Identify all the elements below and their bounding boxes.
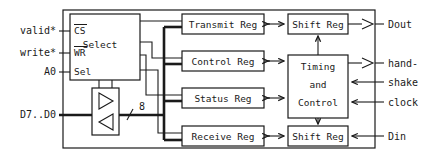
input-din-label: Din xyxy=(388,131,406,142)
diagram-canvas: Select CS WR Sel valid* write* A0 D7..D0… xyxy=(0,0,423,157)
io-handshake-label-line1: hand- xyxy=(388,58,418,69)
output-dout-label: Dout xyxy=(388,19,412,30)
uart-block-diagram: Select CS WR Sel valid* write* A0 D7..D0… xyxy=(0,0,423,157)
io-handshake-label-line2: shake xyxy=(388,77,418,88)
block-shift-reg-rx-label: Shift Reg xyxy=(292,131,343,142)
input-write-label: write* xyxy=(20,47,56,58)
select-pin-sel-label: Sel xyxy=(74,66,91,77)
block-timing-line2: and xyxy=(309,79,326,90)
arrow-handshake-out-icon xyxy=(362,58,373,68)
block-status-reg-label: Status Reg xyxy=(194,93,251,104)
bus-width-label: 8 xyxy=(139,101,145,112)
block-control-reg-label: Control Reg xyxy=(192,56,255,67)
block-receive-reg-label: Receive Reg xyxy=(192,131,255,142)
block-shift-reg-tx-label: Shift Reg xyxy=(292,19,343,30)
input-data-bus-label: D7..D0 xyxy=(20,109,56,120)
arrow-dout-out-icon xyxy=(362,19,373,29)
block-select-label: Select xyxy=(83,39,117,50)
input-clock-label: clock xyxy=(388,97,418,108)
block-transmit-reg-label: Transmit Reg xyxy=(189,19,258,30)
input-a0-label: A0 xyxy=(44,66,56,77)
input-valid-label: valid* xyxy=(20,25,56,36)
block-timing-line1: Timing xyxy=(301,61,335,72)
block-bus-buffer[interactable] xyxy=(92,88,119,135)
wire-select-to-status xyxy=(140,55,182,95)
select-pin-wr-label: WR xyxy=(74,47,86,58)
select-pin-cs-label: CS xyxy=(74,25,86,36)
block-timing-line3: Control xyxy=(298,97,338,108)
